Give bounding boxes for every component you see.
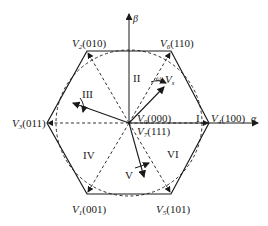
- label-v1: V1(001): [72, 204, 106, 217]
- alpha-axis-label: α: [251, 114, 256, 124]
- label-v4-name: V: [211, 112, 218, 124]
- sector-5-label: V: [125, 170, 133, 181]
- vector-v2: [88, 53, 129, 123]
- label-v7-code: (111): [147, 125, 170, 137]
- label-v4-code: (100): [221, 112, 245, 124]
- label-v7: V7(111): [137, 126, 170, 139]
- sector-1-label: I: [196, 113, 200, 124]
- sector-3-label: III: [82, 89, 93, 100]
- label-v2-name: V: [72, 37, 79, 49]
- label-v6-code: (110): [170, 37, 193, 49]
- beta-axis-label: β: [133, 14, 138, 24]
- label-vs-sub: s: [172, 79, 175, 87]
- label-v7-name: V: [137, 125, 144, 137]
- label-v1-name: V: [72, 203, 79, 215]
- label-v5-code: (101): [166, 203, 190, 215]
- label-v2: V2(010): [72, 38, 106, 51]
- rotating-vector-sector-3: [73, 103, 129, 123]
- label-vs: Vs: [165, 74, 174, 87]
- label-v4: V4(100): [211, 113, 245, 126]
- sector-4-label: IV: [83, 150, 95, 161]
- label-v5: V5(101): [156, 204, 190, 217]
- sector-6-label: VI: [167, 149, 179, 160]
- omega-label: ω: [156, 75, 162, 83]
- label-v0-code: (000): [147, 112, 171, 124]
- sector-2-label: II: [133, 73, 140, 84]
- label-v3: V3(011): [12, 118, 46, 131]
- label-v6: V6(110): [160, 38, 194, 51]
- label-v3-code: (011): [22, 117, 45, 129]
- label-v6-name: V: [160, 37, 167, 49]
- rotation-arc-sector-3-icon: [80, 98, 84, 112]
- label-v0-name: V: [137, 112, 144, 124]
- label-v1-code: (001): [82, 203, 106, 215]
- label-v3-name: V: [12, 117, 19, 129]
- label-v2-code: (010): [82, 37, 106, 49]
- label-vs-name: V: [165, 73, 172, 85]
- label-v5-name: V: [156, 203, 163, 215]
- rotation-arc-sector-5-icon: [135, 163, 149, 168]
- space-vector-diagram: β α V2(010) V6(110) V3(011) V4(100) V1(0…: [0, 0, 268, 226]
